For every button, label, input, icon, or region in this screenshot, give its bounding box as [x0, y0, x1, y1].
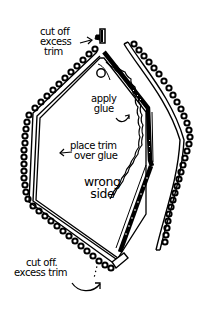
label-apply-glue: apply glue	[91, 94, 117, 114]
glue-dot-icon	[97, 69, 105, 77]
label-line: side	[84, 188, 121, 200]
trim-application-diagram: cut off excess trim apply glue place tri…	[0, 0, 213, 311]
label-cut-off-top: cut off excess trim	[40, 27, 71, 57]
curved-arrow-bottom-icon	[72, 283, 100, 291]
label-wrong-side: wrong side	[84, 176, 121, 200]
label-place-trim: place trim over glue	[70, 141, 118, 161]
label-cut-off-bottom: cut off. excess trim	[14, 258, 67, 278]
label-line: excess trim	[14, 268, 67, 278]
label-line: over glue	[70, 151, 118, 161]
cut-trim-end-top	[95, 29, 105, 43]
label-line: trim	[40, 47, 71, 57]
curved-arrow-icon	[116, 115, 129, 122]
right-arrow-icon	[80, 37, 92, 44]
label-line: glue	[91, 104, 117, 114]
